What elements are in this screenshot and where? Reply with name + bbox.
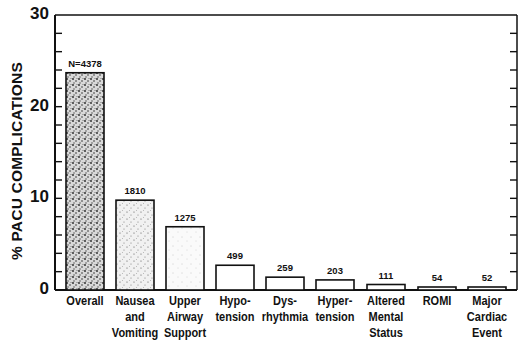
x-category-label-line: Vomiting bbox=[110, 325, 159, 341]
bar-value-label: 203 bbox=[310, 265, 360, 276]
x-category-label-line: Dys- bbox=[260, 293, 309, 309]
bar-value-label: N=4378 bbox=[60, 58, 110, 69]
x-category-label: Hypo-tension bbox=[210, 293, 259, 325]
y-tick-label: 30 bbox=[19, 4, 49, 24]
x-category-label: Hyper-tension bbox=[310, 293, 359, 325]
x-category-label-line: Hypo- bbox=[210, 293, 259, 309]
x-category-label-line: Mental bbox=[361, 309, 410, 325]
bar-hypotension bbox=[216, 265, 254, 290]
x-category-label-line: Altered bbox=[361, 293, 410, 309]
x-category-label-line: Overall bbox=[60, 293, 109, 309]
x-category-label: Overall bbox=[60, 293, 109, 309]
x-category-label: NauseaandVomiting bbox=[110, 293, 159, 341]
bar-value-label: 1275 bbox=[160, 212, 210, 223]
bar-value-label: 111 bbox=[361, 270, 411, 281]
bar-value-label: 499 bbox=[210, 250, 260, 261]
x-category-label-line: Nausea bbox=[110, 293, 159, 309]
x-category-label-line: tension bbox=[310, 309, 359, 325]
x-category-label-line: Status bbox=[361, 325, 410, 341]
bar-upper-airway-support bbox=[166, 227, 204, 290]
y-axis-label-text: % PACU COMPLICATIONS bbox=[8, 62, 26, 260]
y-tick-label: 20 bbox=[19, 96, 49, 116]
bar-major-cardiac-event bbox=[468, 287, 506, 290]
x-category-label: AlteredMentalStatus bbox=[361, 293, 410, 341]
x-category-label-line: tension bbox=[210, 309, 259, 325]
bar-value-label: 1810 bbox=[110, 185, 160, 196]
y-tick-label: 0 bbox=[19, 279, 49, 299]
x-category-label: ROMI bbox=[412, 293, 461, 309]
x-category-label-line: and bbox=[110, 309, 159, 325]
bar-hypertension bbox=[316, 280, 354, 290]
bar-nausea-and-vomiting bbox=[116, 200, 154, 290]
x-category-label: MajorCardiacEvent bbox=[462, 293, 511, 341]
bar-chart: % PACU COMPLICATIONS 0102030 OverallNaus… bbox=[0, 0, 526, 350]
bars-group bbox=[66, 73, 506, 290]
x-category-label-line: Event bbox=[462, 325, 511, 341]
x-category-label-line: ROMI bbox=[412, 293, 461, 309]
x-category-label: Dys-rhythmia bbox=[260, 293, 309, 325]
x-category-label-line: Major bbox=[462, 293, 511, 309]
bar-dysrhythmia bbox=[266, 277, 304, 290]
x-category-label-line: Support bbox=[160, 325, 209, 341]
bar-value-label: 52 bbox=[462, 272, 512, 283]
x-category-label-line: Upper bbox=[160, 293, 209, 309]
x-category-label-line: Cardiac bbox=[462, 309, 511, 325]
x-category-label-line: rhythmia bbox=[260, 309, 309, 325]
x-category-label-line: Hyper- bbox=[310, 293, 359, 309]
bar-value-label: 259 bbox=[260, 262, 310, 273]
bar-altered-mental-status bbox=[367, 285, 405, 291]
bar-overall bbox=[66, 73, 104, 290]
bar-romi bbox=[418, 287, 456, 290]
x-category-label-line: Airway bbox=[160, 309, 209, 325]
bar-value-label: 54 bbox=[412, 272, 462, 283]
y-tick-label: 10 bbox=[19, 187, 49, 207]
x-category-label: UpperAirwaySupport bbox=[160, 293, 209, 341]
y-axis-label: % PACU COMPLICATIONS bbox=[6, 56, 28, 266]
